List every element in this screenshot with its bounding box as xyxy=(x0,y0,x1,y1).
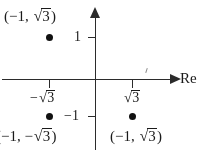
tick-mark-neg-sqrt3 xyxy=(49,80,50,88)
axis-label-re: Re xyxy=(180,71,197,86)
complex-plane-figure: (−1, √3) 1 −1 −√3 √3 (−1, −√3) (−1, √3) … xyxy=(0,0,203,150)
minus-sign: − xyxy=(30,90,38,105)
point-label-lower-right: (−1, √3) xyxy=(110,128,162,144)
radicand: 3 xyxy=(131,90,140,105)
tick-mark-im-one xyxy=(88,37,96,38)
radicand: 3 xyxy=(42,128,52,144)
radicand: 3 xyxy=(41,8,51,24)
point-label-close: ) xyxy=(52,128,57,144)
point-label-lower-left: (−1, −√3) xyxy=(0,128,57,144)
arrow-up-icon xyxy=(90,7,100,18)
real-axis-line xyxy=(2,79,176,80)
point-label-open: (−1, − xyxy=(0,128,33,144)
sqrt-icon: √3 xyxy=(138,128,157,144)
tick-mark-pos-sqrt3 xyxy=(132,80,133,88)
data-point-lower-left xyxy=(46,113,53,120)
tick-label-pos-sqrt3: √3 xyxy=(123,90,140,105)
tick-label-neg-sqrt3: −√3 xyxy=(30,90,55,105)
point-label-close: ) xyxy=(157,128,162,144)
data-point-lower-right xyxy=(129,113,136,120)
tick-label-im-neg-one: −1 xyxy=(64,109,79,123)
data-point-upper-left xyxy=(46,34,53,41)
point-label-close: ) xyxy=(51,8,56,24)
point-label-open: (−1, xyxy=(4,8,32,24)
radicand: 3 xyxy=(147,128,157,144)
point-label-open: (−1, xyxy=(110,128,138,144)
point-label-upper-left: (−1, √3) xyxy=(4,8,56,24)
sqrt-icon: √3 xyxy=(33,128,52,144)
sqrt-icon: √3 xyxy=(123,90,140,105)
scan-artifact-speck xyxy=(145,68,148,73)
tick-mark-im-neg-one xyxy=(88,116,96,117)
sqrt-icon: √3 xyxy=(38,90,55,105)
tick-label-im-one: 1 xyxy=(74,30,81,44)
sqrt-icon: √3 xyxy=(32,8,51,24)
radicand: 3 xyxy=(46,90,55,105)
